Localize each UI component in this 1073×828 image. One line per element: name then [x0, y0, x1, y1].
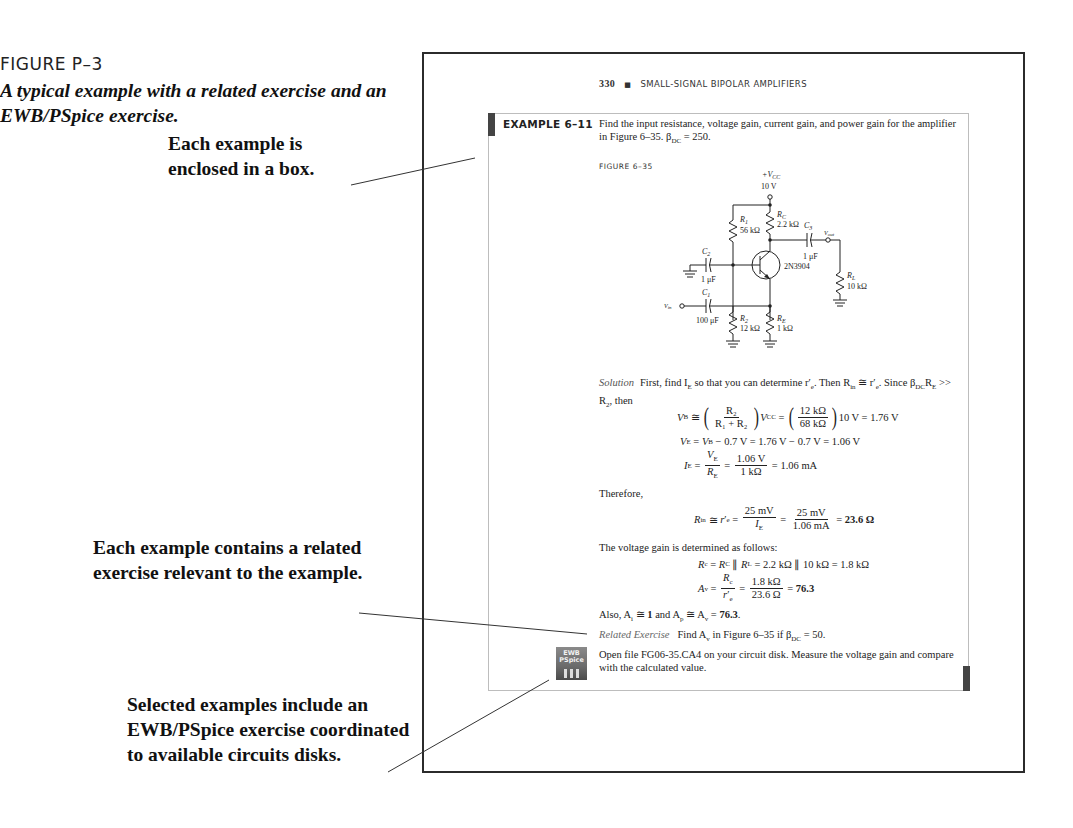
ewb-exercise-text: Open file FG06-35.CA4 on your circuit di…: [599, 648, 959, 674]
svg-text:12 kΩ: 12 kΩ: [740, 324, 760, 333]
figure-caption-label: FIGURE P–3: [0, 54, 103, 74]
svg-text:RE: RE: [776, 314, 786, 324]
ewb-pspice-icon: EWB PSpice: [556, 647, 587, 680]
svg-text:Vout: Vout: [824, 230, 835, 237]
svg-text:R2: R2: [739, 314, 748, 324]
svg-text:2.2 kΩ: 2.2 kΩ: [777, 220, 799, 229]
svg-text:C2: C2: [702, 247, 710, 257]
equation-ve: VE = VB − 0.7 V = 1.76 V − 0.7 V = 1.06 …: [680, 436, 860, 447]
equation-av: Av = Rcr′e = 1.8 kΩ23.6 Ω = 76.3: [698, 572, 814, 605]
example-label: EXAMPLE 6–11: [503, 118, 593, 130]
therefore-text: Therefore,: [599, 487, 643, 500]
related-exercise: Related ExerciseFind Av in Figure 6–35 i…: [599, 628, 825, 646]
separator-icon: ■: [624, 81, 631, 89]
page-number: 330: [599, 78, 615, 89]
example-bottom-bar: [963, 666, 970, 691]
equation-ie: IE = VERE = 1.06 V1 kΩ = 1.06 mA: [684, 449, 817, 482]
callout-ewb-pspice: Selected examples include an EWB/PSpice …: [127, 692, 427, 767]
svg-text:56 kΩ: 56 kΩ: [740, 226, 760, 235]
svg-text:100 μF: 100 μF: [696, 316, 719, 325]
example-top-bar: [488, 113, 495, 136]
svg-text:Vin: Vin: [664, 303, 672, 310]
running-head: 330 ■ SMALL-SIGNAL BIPOLAR AMPLIFIERS: [599, 78, 807, 89]
equation-rc: Rc = RC ∥ RL = 2.2 kΩ ∥ 10 kΩ = 1.8 kΩ: [698, 558, 869, 570]
voltage-gain-text: The voltage gain is determined as follow…: [599, 541, 777, 554]
chapter-title: SMALL-SIGNAL BIPOLAR AMPLIFIERS: [640, 79, 807, 89]
example-problem: Find the input resistance, voltage gain,…: [599, 117, 959, 148]
svg-text:1 kΩ: 1 kΩ: [777, 324, 793, 333]
callout-related-exercise: Each example contains a related exercise…: [93, 535, 413, 585]
svg-text:1 μF: 1 μF: [701, 275, 716, 284]
svg-text:R1: R1: [739, 215, 748, 225]
equation-rin: Rin ≅ r′e = 25 mVIE = 25 mV1.06 mA = 23.…: [694, 505, 874, 534]
solution-lead: Solution: [599, 377, 634, 388]
svg-text:RC: RC: [776, 210, 787, 220]
svg-text:1 μF: 1 μF: [803, 252, 818, 261]
svg-text:C1: C1: [702, 288, 710, 298]
svg-text:10 kΩ: 10 kΩ: [847, 282, 867, 291]
svg-text:+VCC: +VCC: [762, 170, 781, 180]
circuit-schematic: +VCC 10 V R1 56 kΩ RC 2.2 kΩ C3 1 μF Vou…: [640, 165, 880, 365]
svg-text:RL: RL: [846, 271, 856, 281]
callout-boxed-example: Each example is enclosed in a box.: [168, 131, 368, 181]
related-exercise-lead: Related Exercise: [599, 629, 669, 640]
svg-text:10 V: 10 V: [761, 182, 777, 191]
svg-text:C3: C3: [804, 221, 812, 231]
also-text: Also, Ai ≅ 1 and Ap ≅ Av = 76.3.: [599, 608, 740, 626]
svg-text:2N3904: 2N3904: [784, 262, 810, 271]
equation-vb: VB ≅ ( R₂R₁ + R₂ ) VCC = ( 12 kΩ68 kΩ ) …: [677, 404, 899, 430]
figure-caption-text: A typical example with a related exercis…: [0, 78, 420, 128]
